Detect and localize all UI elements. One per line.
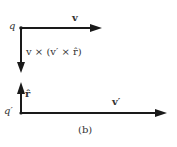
point-q-prime xyxy=(19,111,22,114)
label-q: q xyxy=(9,21,15,31)
label-v: v xyxy=(72,13,78,23)
top-downward-arrow xyxy=(17,28,25,73)
figure-caption: (b) xyxy=(78,125,92,135)
label-v-prime: v′ xyxy=(112,97,120,107)
label-v-cross-v-prime-cross-r-hat: v × (v′ × r̂) xyxy=(26,47,82,57)
bottom-horizontal-arrow-v-prime xyxy=(21,109,167,117)
label-q-prime: q′ xyxy=(4,106,13,116)
top-horizontal-arrow-v xyxy=(21,24,102,32)
bottom-upward-arrow-r-hat xyxy=(17,82,25,113)
label-r-hat: r̂ xyxy=(25,89,30,99)
point-q xyxy=(19,26,23,30)
